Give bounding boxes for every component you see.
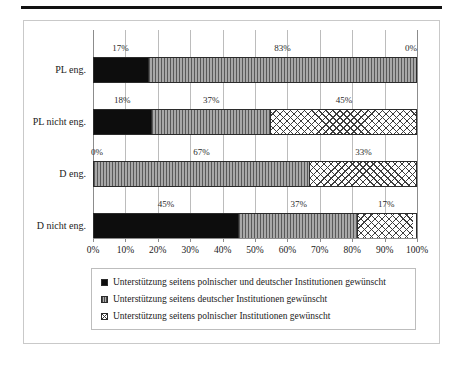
bar-row: PL eng.17%83%0% bbox=[93, 30, 417, 82]
data-label: 0% bbox=[405, 43, 417, 54]
x-axis-tick bbox=[158, 238, 159, 242]
x-tick-label: 50% bbox=[246, 244, 263, 256]
stacked-bar bbox=[93, 57, 417, 83]
legend-item: Unterstützung seitens deutscher Institut… bbox=[101, 291, 415, 308]
data-label: 17% bbox=[378, 199, 395, 210]
x-axis-tick bbox=[320, 238, 321, 242]
bar-row: D eng.0%67%33% bbox=[93, 134, 417, 186]
x-axis-tick bbox=[287, 238, 288, 242]
bar-segment bbox=[94, 58, 149, 82]
x-axis-tick bbox=[93, 238, 94, 242]
data-label: 83% bbox=[274, 43, 291, 54]
x-axis-tick bbox=[417, 238, 418, 242]
x-tick-label: 80% bbox=[343, 244, 360, 256]
bar-segment bbox=[309, 162, 416, 186]
stacked-bar bbox=[93, 213, 417, 239]
category-label: PL nicht eng. bbox=[33, 109, 86, 135]
x-axis-tick bbox=[352, 238, 353, 242]
x-tick-label: 30% bbox=[181, 244, 198, 256]
data-label: 67% bbox=[193, 147, 210, 158]
legend-swatch-icon bbox=[101, 279, 108, 286]
x-tick-label: 90% bbox=[376, 244, 393, 256]
data-label: 37% bbox=[290, 199, 307, 210]
bar-row: D nicht eng.45%37%17% bbox=[93, 186, 417, 238]
bar-segment bbox=[357, 214, 413, 238]
x-axis-tick bbox=[255, 238, 256, 242]
legend-swatch-icon bbox=[101, 296, 108, 303]
bar-segment bbox=[148, 58, 416, 82]
stacked-bar bbox=[93, 161, 417, 187]
x-tick-label: 0% bbox=[87, 244, 100, 256]
bar-segment bbox=[94, 214, 239, 238]
data-label: 0% bbox=[91, 147, 103, 158]
bar-row: PL nicht eng.18%37%45% bbox=[93, 82, 417, 134]
data-label: 17% bbox=[112, 43, 129, 54]
category-label: D eng. bbox=[59, 161, 86, 187]
legend-label: Unterstützung seitens polnischer und deu… bbox=[113, 277, 386, 288]
data-label: 45% bbox=[336, 95, 353, 106]
bar-segment bbox=[238, 214, 358, 238]
x-tick-label: 20% bbox=[149, 244, 166, 256]
x-tick-label: 40% bbox=[214, 244, 231, 256]
legend-swatch-icon bbox=[101, 313, 108, 320]
x-tick-label: 100% bbox=[406, 244, 428, 256]
x-axis-tick bbox=[385, 238, 386, 242]
legend-label: Unterstützung seitens deutscher Institut… bbox=[113, 294, 327, 305]
x-axis-tick bbox=[223, 238, 224, 242]
category-label: D nicht eng. bbox=[37, 213, 86, 239]
bar-segment bbox=[151, 110, 271, 134]
data-label: 45% bbox=[158, 199, 175, 210]
bar-segment bbox=[94, 110, 152, 134]
category-label: PL eng. bbox=[55, 57, 86, 83]
legend-label: Unterstützung seitens polnischer Institu… bbox=[113, 311, 330, 322]
bar-segment bbox=[270, 110, 416, 134]
x-axis-tick bbox=[125, 238, 126, 242]
chart-legend: Unterstützung seitens polnischer und deu… bbox=[91, 268, 416, 330]
x-tick-label: 10% bbox=[117, 244, 134, 256]
bar-segment bbox=[94, 162, 310, 186]
stacked-bar bbox=[93, 109, 417, 135]
data-label: 33% bbox=[355, 147, 372, 158]
x-tick-label: 70% bbox=[311, 244, 328, 256]
legend-item: Unterstützung seitens polnischer und deu… bbox=[101, 274, 415, 291]
legend-item: Unterstützung seitens polnischer Institu… bbox=[101, 308, 415, 325]
data-label: 37% bbox=[203, 95, 220, 106]
x-axis-tick bbox=[190, 238, 191, 242]
x-tick-label: 60% bbox=[279, 244, 296, 256]
chart-plot-area: PL eng.17%83%0%PL nicht eng.18%37%45%D e… bbox=[93, 30, 417, 238]
top-horizontal-rule bbox=[21, 6, 442, 9]
data-label: 18% bbox=[114, 95, 131, 106]
gridline bbox=[417, 30, 418, 238]
